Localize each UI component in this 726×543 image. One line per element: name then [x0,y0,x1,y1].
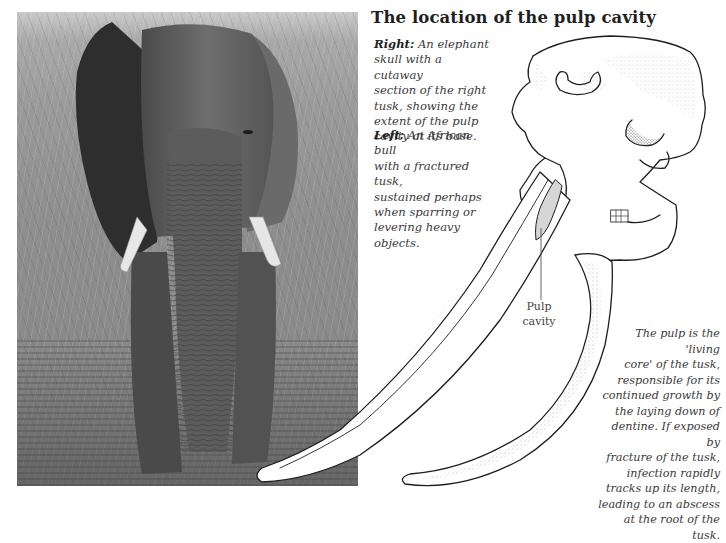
caption-left-line: sustained perhaps [374,190,482,204]
note-line: tracks up its length, [606,482,720,495]
caption-right-line: extent of the pulp [374,114,478,128]
pulp-label-line1: Pulp [526,300,551,313]
caption-left-line: objects. [374,236,420,250]
pulp-cavity-label: Pulp cavity [519,299,559,329]
caption-left-line: with a fractured tusk, [374,159,469,188]
caption-right-lead: Right: [374,37,414,51]
caption-right-line: skull with a cutaway [374,52,442,81]
note-line: infection rapidly [627,467,720,480]
note-line: the laying down of [615,405,720,418]
caption-left-line: when sparring or [374,205,476,219]
note-line: fracture of the tusk, [606,451,720,464]
note-line: responsible for its [617,374,720,387]
note-line: at the root of the tusk. [624,513,720,542]
caption-left-lead: Left: [374,128,404,142]
elephant-silhouette [17,12,358,486]
note-line: dentine. If exposed by [612,420,720,449]
caption-right-line: section of the right [374,83,486,97]
note-line: The pulp is the 'living [635,327,720,356]
elephant-photo [17,12,358,486]
caption-left: Left: An African bull with a fractured t… [374,128,494,251]
note-line: core' of the tusk, [624,358,720,371]
pulp-label-line2: cavity [522,315,555,328]
page-title: The location of the pulp cavity [371,8,656,27]
caption-right-line: An elephant [418,37,489,51]
note-line: leading to an abscess [598,498,720,511]
caption-right-line: tusk, showing the [374,99,478,113]
note-line: continued growth by [602,389,720,402]
pulp-note: The pulp is the 'living core' of the tus… [598,326,720,543]
caption-left-line: levering heavy [374,220,460,234]
